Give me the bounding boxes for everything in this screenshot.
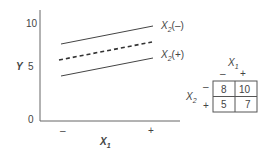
line-average-dashed	[59, 42, 152, 60]
x-axis-label: X1	[99, 136, 111, 149]
table-cell-plus-minus: 5	[221, 99, 227, 110]
y-tick-5: 5	[28, 61, 34, 72]
line-x2-plus	[61, 58, 153, 76]
x-tick-plus: +	[148, 125, 154, 136]
table-col-plus: +	[240, 68, 246, 79]
y-tick-0: 0	[28, 114, 34, 125]
label-x2-minus: X2(–)	[160, 20, 184, 33]
table-col-minus: –	[220, 68, 226, 79]
table-row-minus: –	[203, 81, 209, 92]
table-row-header: X2	[185, 91, 197, 104]
table-col-header: X1	[227, 57, 239, 70]
table-cell-minus-minus: 8	[221, 84, 227, 95]
x-tick-minus: –	[60, 125, 66, 136]
table-cell-minus-plus: 10	[239, 84, 251, 95]
table-row-plus: +	[203, 100, 209, 111]
line-x2-minus	[61, 26, 153, 44]
label-x2-plus: X2(+)	[160, 49, 184, 62]
y-axis-label: Y	[16, 61, 24, 72]
interaction-plot: 10 5 0 Y – + X1 X2(–) X2(+) X1 – + X2 – …	[0, 0, 267, 152]
table-cell-plus-plus: 7	[245, 99, 251, 110]
y-tick-10: 10	[26, 18, 38, 29]
